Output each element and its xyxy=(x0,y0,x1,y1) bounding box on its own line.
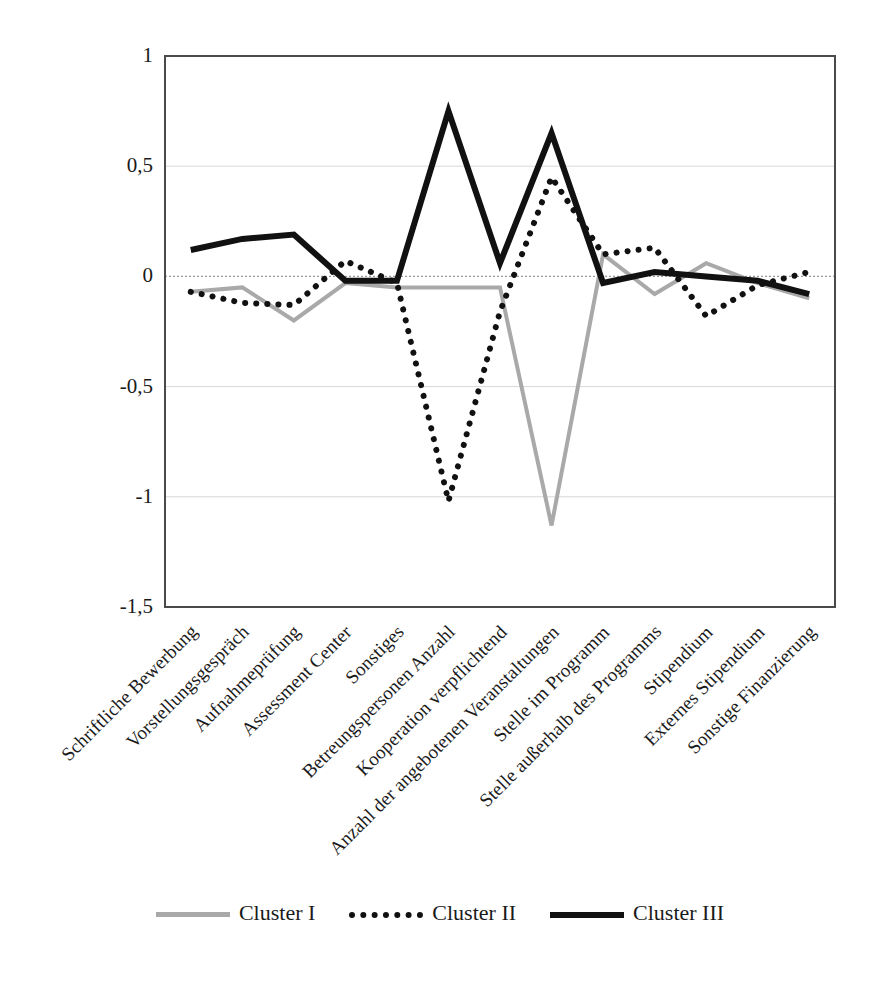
gridlines xyxy=(165,56,835,607)
y-axis-tick-label: 0,5 xyxy=(93,155,153,176)
legend-item-cluster-i: Cluster I xyxy=(156,900,315,926)
series-line-cluster-i xyxy=(191,254,809,525)
legend-swatch-cluster-i xyxy=(156,912,230,917)
y-axis-tick-label: -1 xyxy=(93,486,153,507)
legend-item-cluster-ii: Cluster II xyxy=(349,900,516,926)
y-axis-tick-label: -1,5 xyxy=(93,596,153,617)
y-axis-tick-label: 1 xyxy=(93,45,153,66)
series-layer xyxy=(191,111,809,525)
series-line-cluster-ii xyxy=(191,177,809,501)
plot-area-border xyxy=(165,56,835,607)
y-axis-tick-label: 0 xyxy=(93,265,153,286)
chart-legend: Cluster I Cluster II Cluster III xyxy=(0,900,880,926)
legend-swatch-cluster-ii xyxy=(349,912,423,918)
legend-label-cluster-i: Cluster I xyxy=(239,900,315,926)
legend-item-cluster-iii: Cluster III xyxy=(550,900,724,926)
line-chart: 10,50-0,5-1-1,5 Schriftliche BewerbungVo… xyxy=(0,0,880,986)
legend-label-cluster-ii: Cluster II xyxy=(432,900,516,926)
y-axis-tick-label: -0,5 xyxy=(93,376,153,397)
legend-label-cluster-iii: Cluster III xyxy=(633,900,724,926)
legend-swatch-cluster-iii xyxy=(550,912,624,918)
